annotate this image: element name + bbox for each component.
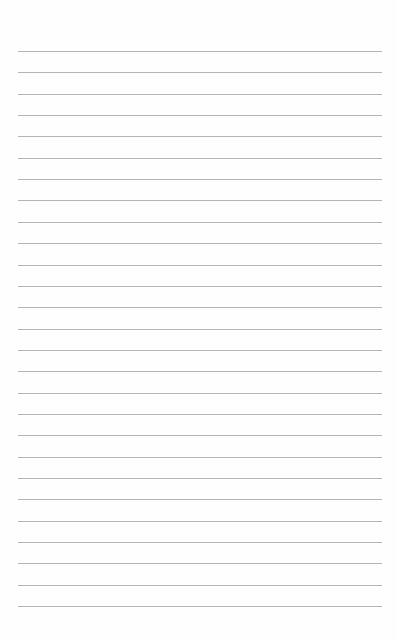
ruled-line [18, 136, 382, 137]
ruled-line [18, 286, 382, 287]
ruled-line [18, 51, 382, 52]
ruled-line [18, 499, 382, 500]
ruled-line [18, 243, 382, 244]
ruled-line [18, 222, 382, 223]
ruled-line [18, 179, 382, 180]
ruled-line [18, 265, 382, 266]
ruled-line [18, 393, 382, 394]
ruled-line [18, 350, 382, 351]
ruled-line [18, 329, 382, 330]
ruled-line [18, 94, 382, 95]
ruled-line [18, 307, 382, 308]
lined-paper-page [0, 0, 397, 643]
ruled-line [18, 606, 382, 607]
ruled-line [18, 72, 382, 73]
ruled-line [18, 115, 382, 116]
ruled-line [18, 585, 382, 586]
ruled-line [18, 414, 382, 415]
ruled-line [18, 435, 382, 436]
ruled-line [18, 563, 382, 564]
ruled-line [18, 542, 382, 543]
ruled-line [18, 478, 382, 479]
ruled-line [18, 457, 382, 458]
ruled-line [18, 521, 382, 522]
ruled-line [18, 200, 382, 201]
ruled-line [18, 371, 382, 372]
ruled-line [18, 158, 382, 159]
